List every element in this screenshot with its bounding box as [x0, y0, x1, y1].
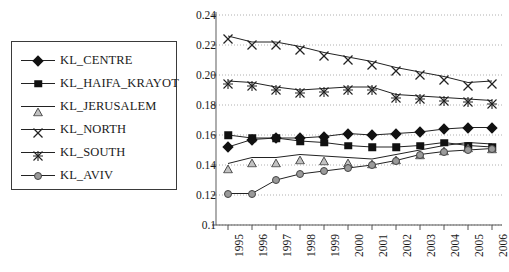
x-axis-tick-label: 2002: [401, 234, 413, 257]
x-axis-tick-label: 1998: [305, 234, 317, 257]
x-axis-tick-label: 2006: [497, 234, 509, 257]
x-axis-tick-label: 2005: [473, 234, 485, 257]
x-axis-tick-label: 1996: [257, 234, 269, 257]
x-axis-tick-label: 2001: [377, 234, 389, 257]
x-axis-tick-label: 1997: [281, 234, 293, 257]
x-axis-tick-label: 2003: [425, 234, 437, 257]
x-axis-tick-label: 1999: [329, 234, 341, 257]
x-axis-tick-label: 2004: [449, 234, 461, 257]
x-axis-tick-label: 2000: [353, 234, 365, 257]
x-axis-tick-label: 1995: [233, 234, 245, 257]
